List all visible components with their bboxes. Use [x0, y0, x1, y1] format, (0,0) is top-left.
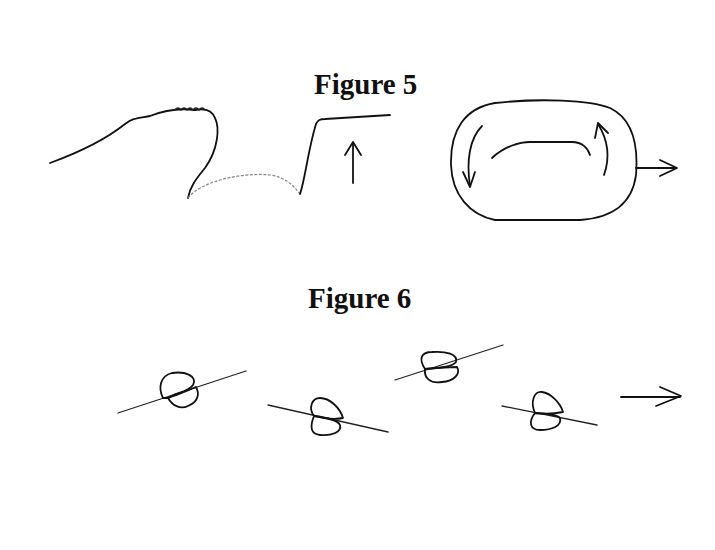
particle-4 — [502, 392, 597, 430]
wave-trough — [188, 174, 300, 198]
right-arrow-icon — [621, 387, 681, 406]
down-arrow-left-icon — [463, 126, 482, 187]
particle-3 — [395, 345, 503, 382]
particle-1 — [118, 371, 246, 413]
oval-outline — [451, 100, 637, 220]
drawing-canvas — [0, 0, 715, 550]
figure-5-oval-circulation — [451, 100, 677, 220]
up-arrow-icon — [345, 142, 361, 183]
figure-5-wave-profile — [50, 108, 390, 198]
up-arrow-right-icon — [595, 123, 608, 175]
figure-6-particle-sequence — [118, 345, 681, 435]
particle-2 — [268, 398, 388, 435]
right-arrow-icon — [636, 160, 677, 176]
inner-arc — [492, 142, 590, 158]
wave-line — [50, 109, 218, 198]
